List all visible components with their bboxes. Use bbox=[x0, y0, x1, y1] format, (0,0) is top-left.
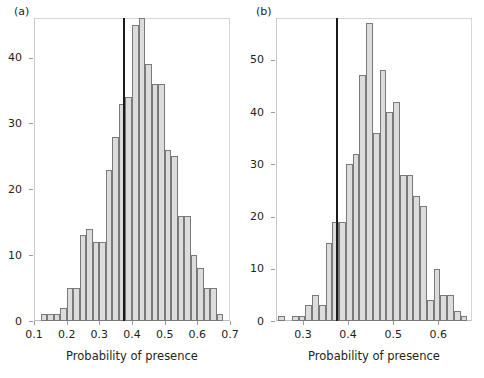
y-tick-label: 40 bbox=[0, 52, 22, 63]
x-tick-mark bbox=[165, 321, 166, 325]
panel-a-label: (a) bbox=[14, 6, 29, 17]
histogram-bar bbox=[319, 305, 326, 321]
histogram-bar bbox=[373, 133, 380, 321]
histogram-bar bbox=[292, 316, 299, 321]
x-tick-label: 0.4 bbox=[328, 329, 368, 340]
y-tick-mark bbox=[271, 164, 275, 165]
y-tick-mark bbox=[271, 321, 275, 322]
observed-value-line bbox=[336, 18, 338, 321]
y-tick-label: 0 bbox=[242, 316, 264, 327]
x-tick-mark bbox=[197, 321, 198, 325]
y-tick-mark bbox=[271, 217, 275, 218]
y-axis-spine bbox=[276, 18, 277, 321]
histogram-bar bbox=[54, 314, 61, 321]
x-axis-title-a: Probability of presence bbox=[34, 350, 230, 362]
histogram-bar bbox=[112, 137, 119, 321]
y-tick-mark bbox=[29, 321, 33, 322]
figure-histograms: (a) 010203040 0.10.20.30.40.50.60.7 Prob… bbox=[0, 0, 484, 378]
y-tick-mark bbox=[29, 189, 33, 190]
histogram-bar bbox=[204, 288, 211, 321]
histogram-bar bbox=[197, 268, 204, 321]
y-tick-label: 10 bbox=[242, 263, 264, 274]
histogram-bar bbox=[145, 64, 152, 321]
histogram-bar bbox=[60, 308, 67, 321]
histogram-bar bbox=[359, 75, 366, 321]
y-tick-label: 20 bbox=[0, 184, 22, 195]
histogram-bar bbox=[99, 242, 106, 321]
y-tick-mark bbox=[29, 58, 33, 59]
histogram-bar bbox=[454, 311, 461, 321]
histogram-bar bbox=[413, 196, 420, 321]
histogram-bar bbox=[41, 314, 48, 321]
x-tick-label: 0.6 bbox=[418, 329, 458, 340]
y-tick-label: 20 bbox=[242, 211, 264, 222]
y-tick-label: 30 bbox=[242, 159, 264, 170]
y-tick-label: 40 bbox=[242, 107, 264, 118]
histogram-bar bbox=[461, 316, 468, 321]
histogram-bar bbox=[407, 175, 414, 321]
x-tick-label: 0.5 bbox=[373, 329, 413, 340]
histogram-bar bbox=[47, 314, 54, 321]
histogram-bar bbox=[278, 316, 285, 321]
histogram-bar bbox=[178, 216, 185, 321]
histogram-bar bbox=[386, 112, 393, 321]
histogram-bar bbox=[191, 255, 198, 321]
histogram-bar bbox=[165, 150, 172, 321]
histogram-bar bbox=[299, 316, 306, 321]
x-tick-mark bbox=[34, 321, 35, 325]
observed-value-line bbox=[123, 18, 125, 321]
y-axis-spine bbox=[34, 18, 35, 321]
histogram-bar bbox=[427, 300, 434, 321]
x-tick-mark bbox=[67, 321, 68, 325]
y-tick-label: 10 bbox=[0, 250, 22, 261]
x-tick-label: 0.3 bbox=[283, 329, 323, 340]
histogram-bar bbox=[67, 288, 74, 321]
histogram-bar bbox=[312, 295, 319, 321]
y-tick-mark bbox=[29, 123, 33, 124]
histogram-bar bbox=[73, 288, 80, 321]
y-tick-label: 30 bbox=[0, 118, 22, 129]
y-tick-mark bbox=[271, 269, 275, 270]
histogram-bar bbox=[393, 102, 400, 321]
histogram-bar bbox=[217, 314, 224, 321]
x-tick-mark bbox=[303, 321, 304, 325]
histogram-bar bbox=[93, 242, 100, 321]
histogram-bar bbox=[380, 70, 387, 321]
histogram-bar bbox=[139, 18, 146, 321]
bars-b bbox=[276, 18, 472, 321]
histogram-bar bbox=[171, 156, 178, 321]
histogram-bar bbox=[152, 84, 159, 321]
histogram-bar bbox=[210, 288, 217, 321]
x-tick-mark bbox=[393, 321, 394, 325]
histogram-bar bbox=[440, 295, 447, 321]
y-tick-label: 0 bbox=[0, 316, 22, 327]
histogram-bar bbox=[420, 206, 427, 321]
histogram-bar bbox=[346, 164, 353, 321]
histogram-bar bbox=[326, 243, 333, 321]
histogram-bar bbox=[305, 305, 312, 321]
histogram-bar bbox=[339, 222, 346, 321]
x-tick-mark bbox=[230, 321, 231, 325]
histogram-bar bbox=[447, 295, 454, 321]
histogram-bar bbox=[434, 269, 441, 321]
histogram-bar bbox=[353, 154, 360, 321]
y-tick-mark bbox=[271, 112, 275, 113]
histogram-bar bbox=[158, 84, 165, 321]
y-tick-mark bbox=[271, 60, 275, 61]
histogram-bar bbox=[366, 23, 373, 321]
histogram-bar bbox=[106, 170, 113, 322]
x-axis-title-b: Probability of presence bbox=[276, 350, 472, 362]
panel-b-label: (b) bbox=[256, 6, 272, 17]
y-tick-mark bbox=[29, 255, 33, 256]
histogram-bar bbox=[86, 229, 93, 321]
histogram-bar bbox=[400, 175, 407, 321]
histogram-bar bbox=[125, 97, 132, 321]
histogram-bar bbox=[80, 235, 87, 321]
x-tick-mark bbox=[132, 321, 133, 325]
panel-b: (b) 01020304050 0.30.40.50.6 Probability… bbox=[242, 0, 484, 378]
x-tick-mark bbox=[348, 321, 349, 325]
bars-a bbox=[34, 18, 230, 321]
panel-a: (a) 010203040 0.10.20.30.40.50.60.7 Prob… bbox=[0, 0, 242, 378]
x-tick-mark bbox=[99, 321, 100, 325]
histogram-bar bbox=[184, 216, 191, 321]
